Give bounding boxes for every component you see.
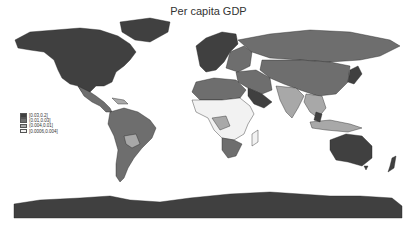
region-indonesia[interactable] [310, 120, 362, 132]
legend-swatch [20, 113, 27, 118]
legend-label: [0.0006,0.004] [29, 129, 58, 134]
region-australia[interactable] [330, 134, 372, 166]
legend: [0.03,0.2] (0.01,0.03] (0.004,0.01] [0.0… [20, 113, 58, 134]
region-antarctica[interactable] [14, 192, 402, 218]
region-tasmania[interactable] [364, 166, 368, 170]
legend-swatch [20, 124, 27, 129]
region-caribbean[interactable] [112, 98, 128, 104]
region-greenland[interactable] [120, 18, 170, 42]
region-china[interactable] [260, 60, 350, 96]
region-southern-africa[interactable] [222, 138, 242, 158]
legend-swatch [20, 118, 27, 123]
region-north-america[interactable] [15, 28, 136, 92]
region-madagascar[interactable] [252, 130, 258, 146]
region-japan[interactable] [348, 66, 362, 84]
region-russia[interactable] [238, 30, 400, 62]
region-mexico-central-america[interactable] [78, 86, 112, 112]
legend-row: [0.0006,0.004] [20, 129, 58, 134]
region-southeast-asia[interactable] [304, 94, 326, 118]
world-map [0, 0, 417, 230]
legend-swatch [20, 129, 27, 134]
region-india[interactable] [276, 86, 304, 118]
region-new-zealand[interactable] [388, 156, 396, 172]
